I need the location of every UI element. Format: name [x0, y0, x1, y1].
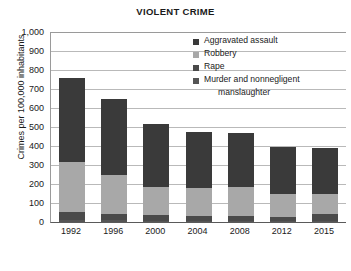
bar-segment[interactable]	[101, 99, 127, 175]
bar-group-2000[interactable]	[143, 32, 169, 222]
bar-segment[interactable]	[270, 147, 296, 194]
legend-label: Rape	[204, 61, 225, 73]
bar-segment[interactable]	[312, 148, 338, 195]
legend-swatch-icon	[193, 52, 199, 58]
bar-segment[interactable]	[228, 187, 254, 216]
bar-segment[interactable]	[270, 194, 296, 216]
bar-segment[interactable]	[228, 221, 254, 222]
bar-segment[interactable]	[186, 132, 212, 188]
bar-group-1996[interactable]	[101, 32, 127, 222]
bar-segment[interactable]	[312, 194, 338, 214]
legend-swatch-icon	[193, 39, 199, 45]
legend-item[interactable]: Robbery	[193, 48, 345, 61]
bar-segment[interactable]	[186, 188, 212, 215]
x-tick-label-2015: 2015	[299, 226, 349, 236]
bar-segment[interactable]	[143, 215, 169, 221]
legend-label: Aggravated assault	[204, 35, 278, 47]
violent-crime-chart: VIOLENT CRIME Crimes per 100,000 inhabit…	[0, 0, 351, 271]
legend-label: Robbery	[204, 48, 236, 60]
bar-segment[interactable]	[59, 220, 85, 222]
legend-label: Murder and nonnegligent	[204, 74, 300, 86]
y-tick-label: 200	[2, 180, 44, 189]
y-tick-label: 300	[2, 161, 44, 170]
bar-segment[interactable]	[59, 78, 85, 162]
y-tick-label: 900	[2, 47, 44, 56]
y-tick-label: 700	[2, 85, 44, 94]
bar-segment[interactable]	[143, 187, 169, 215]
page-title: VIOLENT CRIME	[0, 6, 351, 17]
bar-segment[interactable]	[59, 212, 85, 220]
bar-segment[interactable]	[228, 133, 254, 187]
y-tick-label: 0	[2, 218, 44, 227]
bar-segment[interactable]	[143, 124, 169, 187]
legend-swatch-icon	[193, 65, 199, 71]
bar-segment[interactable]	[270, 221, 296, 222]
y-tick-label: 100	[2, 199, 44, 208]
bar-segment[interactable]	[312, 221, 338, 222]
y-tick-label: 600	[2, 104, 44, 113]
bar-segment[interactable]	[312, 214, 338, 220]
bar-segment[interactable]	[101, 175, 127, 214]
bar-segment[interactable]	[270, 217, 296, 222]
bar-segment[interactable]	[186, 221, 212, 222]
legend-item[interactable]: Rape	[193, 61, 345, 74]
y-tick-label: 500	[2, 123, 44, 132]
legend-swatch-icon	[193, 78, 199, 84]
bar-group-1992[interactable]	[59, 32, 85, 222]
bar-segment[interactable]	[186, 216, 212, 221]
bar-segment[interactable]	[228, 216, 254, 221]
y-tick-label: 800	[2, 66, 44, 75]
bar-segment[interactable]	[59, 162, 85, 211]
bar-segment[interactable]	[143, 221, 169, 222]
bar-segment[interactable]	[101, 220, 127, 222]
chart-legend: Aggravated assaultRobberyRapeMurder and …	[193, 35, 345, 99]
y-tick-label: 1,000	[2, 28, 44, 37]
bar-segment[interactable]	[101, 214, 127, 220]
legend-label-continuation: manslaughter	[193, 87, 345, 99]
legend-item[interactable]: Aggravated assault	[193, 35, 345, 48]
legend-item[interactable]: Murder and nonnegligent	[193, 74, 345, 87]
y-tick-label: 400	[2, 142, 44, 151]
